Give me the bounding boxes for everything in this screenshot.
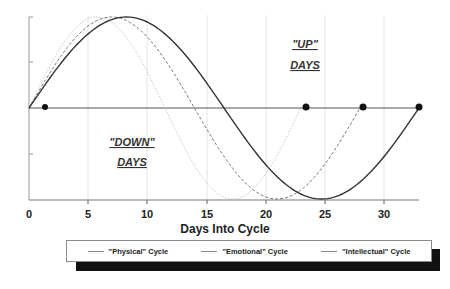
x-tick-label: 0: [26, 208, 32, 220]
x-tick-label: 20: [260, 208, 272, 220]
x-axis-title: Days Into Cycle: [180, 222, 270, 236]
biorhythm-chart: "UP" DAYS "DOWN" DAYS 0 5 10 15 20 25 30…: [0, 0, 450, 240]
intellectual-line-swatch-icon: [321, 251, 337, 252]
legend-item-physical: "Physical" Cycle: [88, 247, 169, 256]
x-tick-label: 30: [378, 208, 390, 220]
legend-label: "Emotional" Cycle: [222, 247, 287, 256]
marker-dot: [416, 104, 423, 111]
legend: "Physical" Cycle "Emotional" Cycle "Inte…: [66, 240, 432, 262]
x-tick-label: 25: [319, 208, 331, 220]
marker-dot: [42, 104, 48, 110]
legend-label: "Physical" Cycle: [109, 247, 169, 256]
x-tick-label: 5: [85, 208, 91, 220]
down-days-label-1: "DOWN": [109, 136, 155, 148]
legend-label: "Intellectual" Cycle: [342, 247, 410, 256]
legend-item-intellectual: "Intellectual" Cycle: [321, 247, 410, 256]
cycle-markers: [42, 104, 423, 111]
x-tick-labels: 0 5 10 15 20 25 30: [26, 208, 390, 220]
up-days-label-2: DAYS: [290, 59, 320, 71]
marker-dot: [303, 104, 310, 111]
legend-item-emotional: "Emotional" Cycle: [201, 247, 287, 256]
physical-line-swatch-icon: [88, 251, 104, 252]
marker-dot: [360, 104, 367, 111]
down-days-label-2: DAYS: [117, 156, 147, 168]
x-axis: [29, 200, 419, 204]
x-tick-label: 15: [201, 208, 213, 220]
up-days-label-1: "UP": [292, 38, 318, 50]
emotional-line-swatch-icon: [201, 251, 217, 252]
x-tick-label: 10: [141, 208, 153, 220]
